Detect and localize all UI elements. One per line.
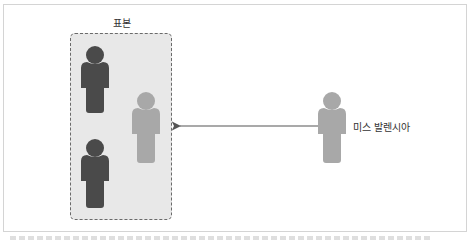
cut-off-caption (10, 236, 430, 240)
person-icon (81, 139, 109, 208)
person-icon (132, 92, 160, 163)
outside-person-label: 미스 발렌시아 (353, 119, 410, 134)
person-icon (318, 92, 346, 163)
person-icon (81, 46, 109, 113)
